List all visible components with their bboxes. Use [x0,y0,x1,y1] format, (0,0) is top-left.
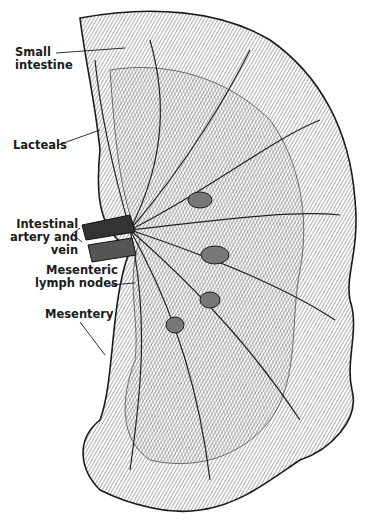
lymph-node [188,192,212,208]
label-mesenteric-lymph-nodes: Mesenteric lymph nodes [35,264,118,290]
label-mesentery: Mesentery [45,308,114,321]
label-lacteals: Lacteals [13,139,67,152]
label-small-intestine: Small intestine [15,46,73,72]
lymph-node [200,292,220,308]
lymph-node [201,246,229,264]
lymph-node [166,317,184,333]
label-intestinal-artery-vein: Intestinal artery and vein [10,218,78,257]
